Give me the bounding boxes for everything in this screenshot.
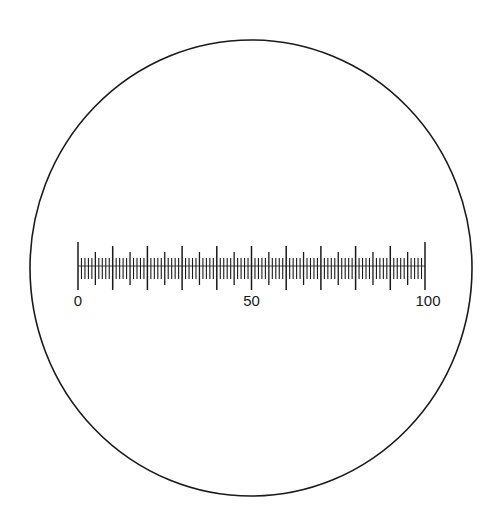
scale-label-0: 0 bbox=[74, 292, 82, 309]
reticle-diagram: 0 50 100 bbox=[0, 0, 493, 519]
scale-label-100: 100 bbox=[415, 292, 440, 309]
scale-labels: 0 50 100 bbox=[74, 292, 441, 309]
micrometer-scale bbox=[78, 242, 425, 290]
scale-label-50: 50 bbox=[243, 292, 260, 309]
